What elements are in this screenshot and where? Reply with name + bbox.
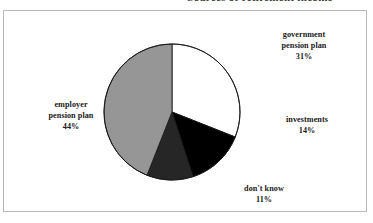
slice-label-line1: investments — [286, 115, 328, 124]
pie-chart-figure: Sources of retirement income government … — [0, 0, 373, 223]
slice-label-line1: government — [283, 30, 325, 39]
slice-label-government-pension-plan: government pension plan 31% — [258, 30, 350, 62]
slice-value-employer-pension-plan: 44% — [22, 122, 120, 133]
slice-value-government-pension-plan: 31% — [258, 52, 350, 63]
pie-slice-group — [104, 44, 240, 180]
slice-label-line2: pension plan — [282, 41, 327, 50]
slice-label-employer-pension-plan: employer pension plan 44% — [22, 100, 120, 132]
slice-value-dont-know: 11% — [222, 195, 306, 206]
slice-label-dont-know: don't know 11% — [222, 184, 306, 206]
slice-label-line2: pension plan — [49, 111, 94, 120]
slice-label-investments: investments 14% — [264, 115, 350, 137]
slice-value-investments: 14% — [264, 126, 350, 137]
slice-label-line1: don't know — [244, 184, 284, 193]
slice-label-line1: employer — [54, 100, 87, 109]
